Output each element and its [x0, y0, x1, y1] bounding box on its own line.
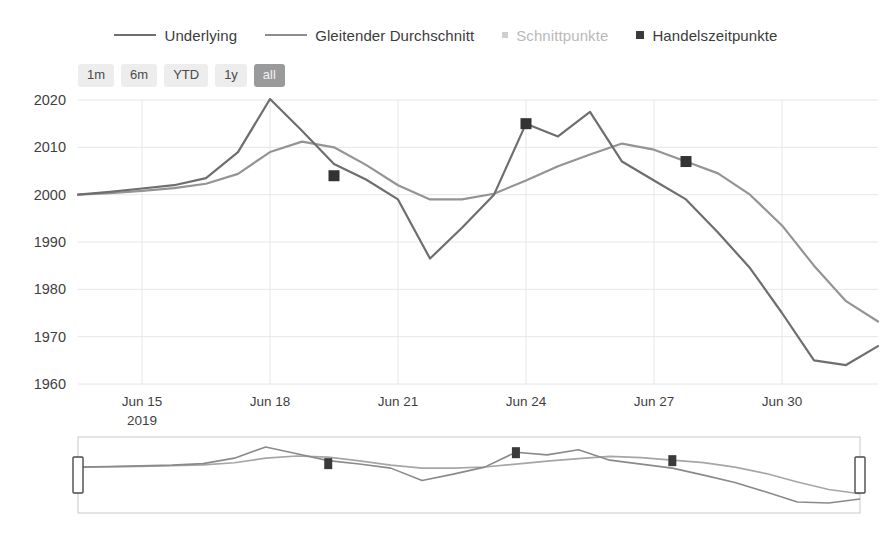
- range-selector: 1m 6m YTD 1y all: [78, 64, 285, 87]
- navigator-series-underlying: [78, 447, 860, 503]
- navigator-trade-marker: [324, 458, 332, 469]
- legend-label: Gleitender Durchschnitt: [315, 27, 474, 44]
- range-button-6m[interactable]: 6m: [121, 64, 157, 87]
- range-button-all[interactable]: all: [254, 64, 285, 87]
- trade-point-marker[interactable]: [329, 170, 340, 181]
- stock-chart-page: Underlying Gleitender Durchschnitt Schni…: [0, 0, 892, 542]
- series-line-underlying: [78, 99, 878, 365]
- square-icon: [636, 31, 644, 39]
- navigator-handle-right[interactable]: [855, 457, 865, 493]
- x-axis-tick-label: Jun 30: [762, 394, 803, 409]
- x-axis-tick-label: Jun 21: [378, 394, 419, 409]
- range-button-1y[interactable]: 1y: [215, 64, 247, 87]
- legend-item-crossing-points[interactable]: Schnittpunkte: [502, 27, 608, 44]
- trade-point-markers[interactable]: [329, 118, 692, 181]
- legend-item-trade-points[interactable]: Handelszeitpunkte: [636, 27, 777, 44]
- navigator-trade-markers: [324, 447, 676, 469]
- y-axis-tick-label: 1970: [34, 329, 66, 345]
- line-icon: [265, 34, 307, 36]
- y-axis-tick-label: 2000: [34, 187, 66, 203]
- navigator-trade-marker: [512, 447, 520, 458]
- y-axis-tick-label: 1960: [34, 376, 66, 392]
- legend-label: Schnittpunkte: [516, 27, 608, 44]
- x-axis-year-label: 2019: [127, 413, 157, 428]
- navigator-frame[interactable]: [78, 437, 860, 513]
- y-axis-tick-labels: 1960197019801990200020102020: [34, 92, 66, 392]
- navigator-handle-left[interactable]: [73, 457, 83, 493]
- line-icon: [114, 34, 156, 36]
- legend-label: Handelszeitpunkte: [652, 27, 777, 44]
- y-axis-tick-label: 2020: [34, 92, 66, 108]
- y-axis-tick-label: 2010: [34, 139, 66, 155]
- navigator-trade-marker: [668, 455, 676, 466]
- series-line-moving-average: [78, 142, 878, 322]
- navigator[interactable]: [73, 437, 865, 513]
- chart-legend: Underlying Gleitender Durchschnitt Schni…: [0, 24, 892, 46]
- range-button-ytd[interactable]: YTD: [164, 64, 208, 87]
- y-axis-tick-label: 1980: [34, 281, 66, 297]
- legend-item-underlying[interactable]: Underlying: [114, 27, 237, 44]
- square-icon: [502, 32, 508, 38]
- legend-label: Underlying: [164, 27, 237, 44]
- x-axis-tick-label: Jun 27: [634, 394, 675, 409]
- range-button-1m[interactable]: 1m: [78, 64, 114, 87]
- legend-item-moving-average[interactable]: Gleitender Durchschnitt: [265, 27, 474, 44]
- trade-point-marker[interactable]: [681, 156, 692, 167]
- trade-point-marker[interactable]: [521, 118, 532, 129]
- y-axis-tick-label: 1990: [34, 234, 66, 250]
- navigator-series-moving-average: [78, 456, 860, 494]
- chart-gridlines: [78, 100, 878, 384]
- x-axis-tick-label: Jun 18: [250, 394, 291, 409]
- x-axis-tick-label: Jun 24: [506, 394, 547, 409]
- x-axis-tick-labels: Jun 152019Jun 18Jun 21Jun 24Jun 27Jun 30: [122, 394, 803, 428]
- x-axis-tick-label: Jun 15: [122, 394, 163, 409]
